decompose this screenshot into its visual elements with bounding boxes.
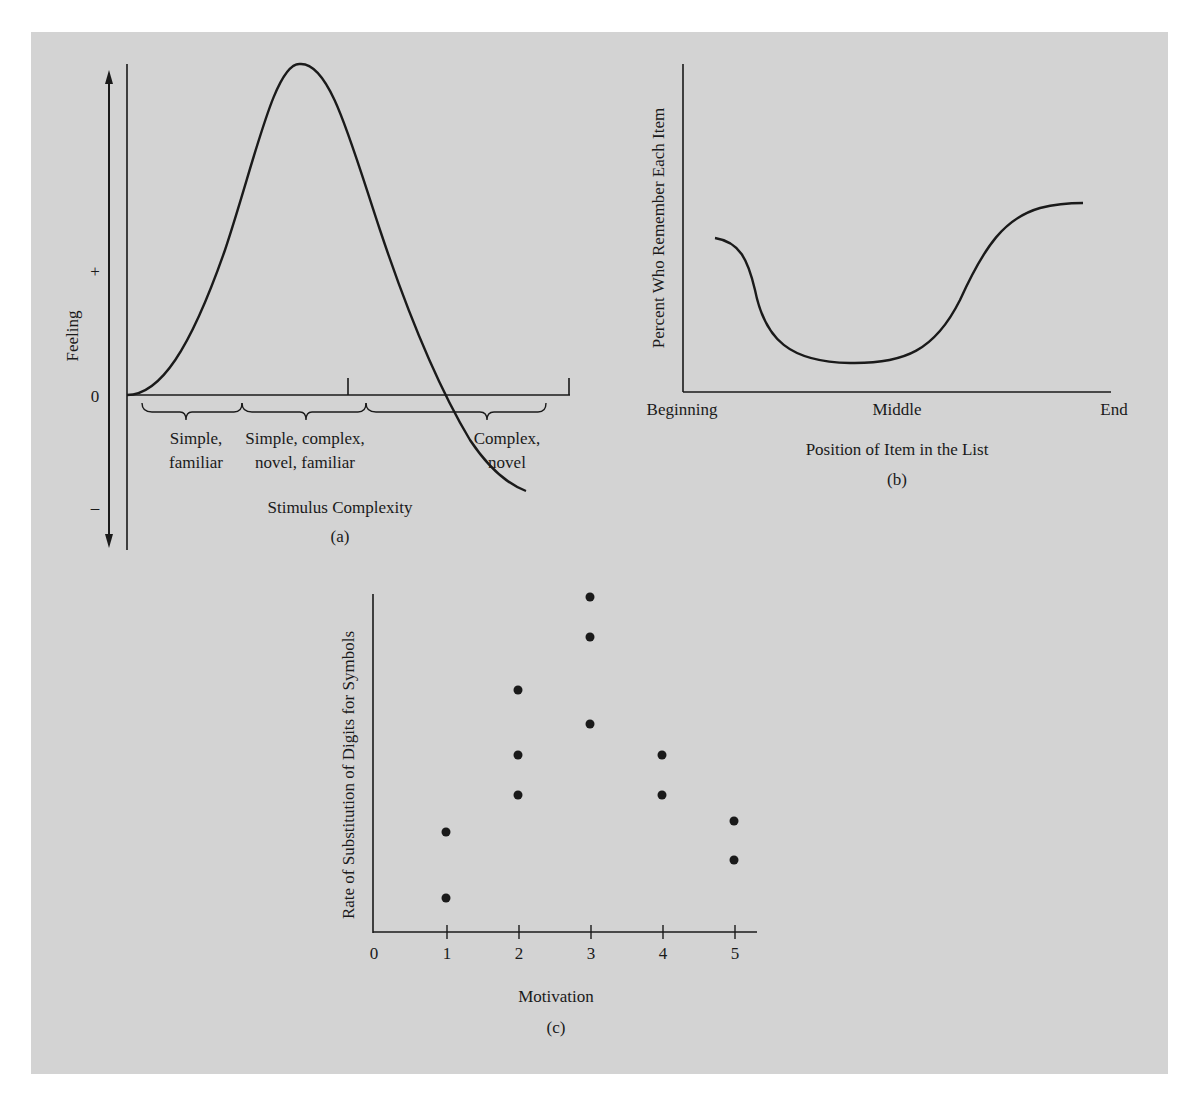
data-point [514,751,523,760]
x-axis-label-b: Position of Item in the List [806,440,989,459]
feeling-curve [127,64,526,491]
figure-panel: + 0 – Feeling Simple, familiar Simple, c… [31,32,1168,1074]
arrow-up-icon [105,70,113,84]
y-tick-plus: + [90,262,100,281]
x-tick-middle: Middle [872,400,921,419]
chart-b: Percent Who Remember Each Item Beginning… [647,64,1129,489]
data-point [514,791,523,800]
data-point [586,593,595,602]
x-tick-beginning: Beginning [647,400,718,419]
data-point [730,856,739,865]
x-tick-label-0: 0 [370,944,379,963]
x-axis-label-a: Stimulus Complexity [268,498,413,517]
y-axis-label-b: Percent Who Remember Each Item [649,108,668,348]
data-point [442,894,451,903]
y-tick-zero: 0 [91,387,100,406]
group-label-2-line2: novel, familiar [255,453,355,472]
group-label-3-line1: Complex, [474,429,541,448]
panel-label-c: (c) [547,1018,566,1037]
arrow-down-icon [105,534,113,548]
group-label-1-line2: familiar [169,453,223,472]
data-point [442,828,451,837]
x-tick-label-2: 2 [515,944,524,963]
panel-label-b: (b) [887,470,907,489]
group-label-1-line1: Simple, [170,429,222,448]
chart-a: + 0 – Feeling Simple, familiar Simple, c… [63,64,570,550]
x-tick-label-5: 5 [731,944,740,963]
y-axis-label-c: Rate of Substitution of Digits for Symbo… [339,631,358,919]
data-point [730,817,739,826]
data-point [586,633,595,642]
data-point [514,686,523,695]
data-point [586,720,595,729]
scatter-points [442,593,739,903]
recall-curve [715,203,1083,363]
group-label-2-line1: Simple, complex, [245,429,364,448]
y-tick-minus: – [90,498,100,517]
x-axis-label-c: Motivation [518,987,594,1006]
brace-mixed [242,403,366,420]
figure-svg: + 0 – Feeling Simple, familiar Simple, c… [31,32,1168,1074]
data-point [658,791,667,800]
data-point [658,751,667,760]
x-tick-end: End [1100,400,1128,419]
brace-simple-familiar [142,403,242,420]
group-label-3-line2: novel [488,453,526,472]
x-tick-label-3: 3 [587,944,596,963]
chart-c: 0 1 2 3 4 5 Rate of Substitution of Digi… [339,593,757,1038]
x-tick-label-1: 1 [443,944,452,963]
x-tick-label-4: 4 [659,944,668,963]
panel-label-a: (a) [331,527,350,546]
y-axis-label-a: Feeling [63,310,82,361]
